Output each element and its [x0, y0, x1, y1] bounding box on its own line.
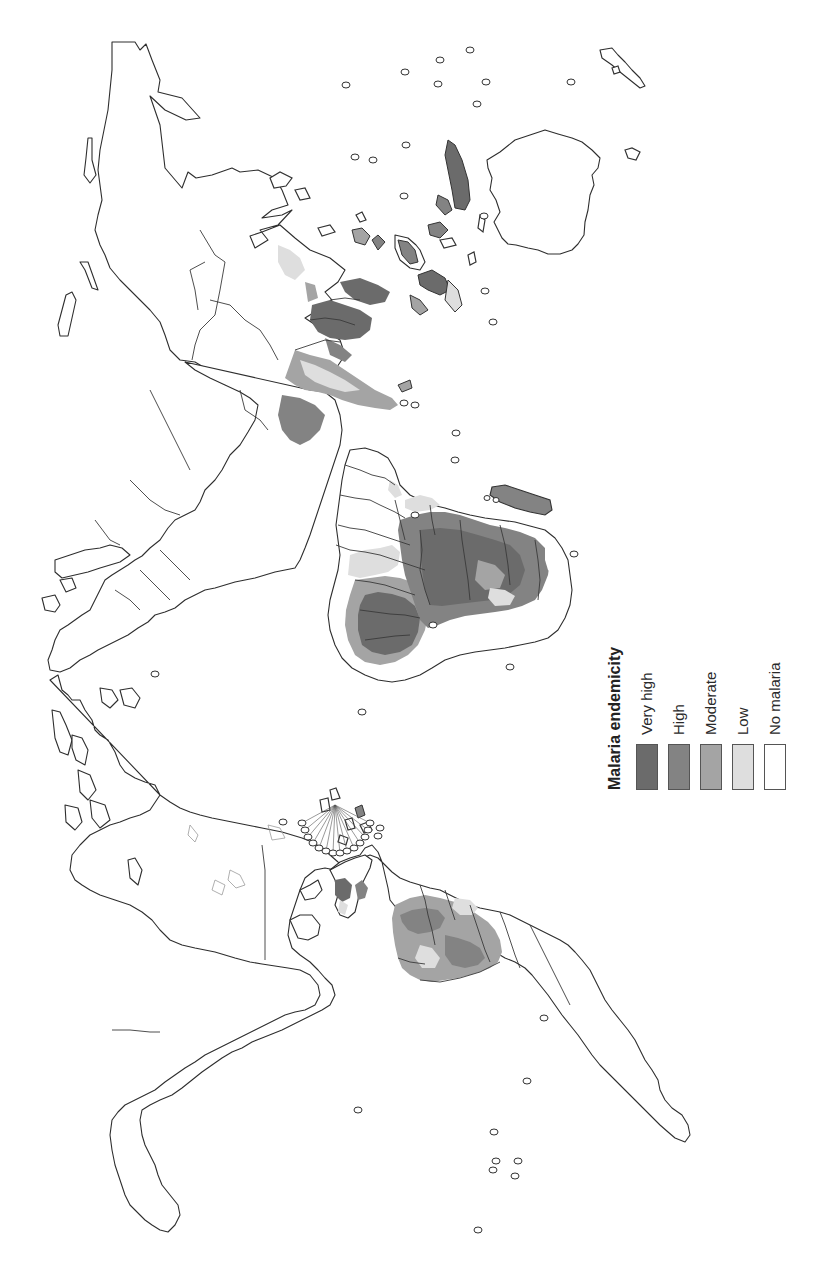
legend-swatch-very-high — [636, 744, 658, 790]
legend-label-no-malaria: No malaria — [766, 662, 783, 735]
legend-swatch-no-malaria — [764, 744, 786, 790]
legend-label-low: Low — [734, 707, 751, 735]
australia — [487, 48, 645, 254]
north-america — [50, 675, 350, 1232]
legend-swatch-moderate — [700, 744, 722, 790]
legend-label-high: High — [670, 704, 687, 735]
legend-label-moderate: Moderate — [702, 672, 719, 735]
world-map — [0, 0, 827, 1284]
legend-swatch-high — [668, 744, 690, 790]
legend-swatch-low — [732, 744, 754, 790]
legend-label-very-high: Very high — [638, 672, 655, 735]
legend-title: Malaria endemicity — [606, 647, 624, 790]
africa — [328, 448, 572, 682]
central-south-america — [320, 788, 690, 1142]
